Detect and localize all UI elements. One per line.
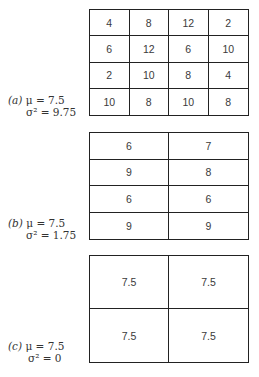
grid-cell: 7.5 [169,256,248,309]
grid-cell: 10 [169,89,209,115]
grid-cell: 9 [90,213,169,240]
panel-tag: (b) [8,217,23,229]
grid-cell: 8 [169,63,209,89]
panel-b-label: (b) μ = 7.5 σ² = 1.75 [8,217,76,241]
grid-cell: 2 [209,10,249,36]
grid-cell: 8 [130,10,170,36]
grid-panel-c: 7.5 7.5 7.5 7.5 [89,255,249,363]
panel-c-label: (c) μ = 7.5 σ² = 0 [8,340,64,364]
grid-panel-b: 6 7 9 8 6 6 9 9 [89,132,249,240]
variance-label: σ² = 0 [8,352,64,364]
grid-cell: 12 [130,36,170,62]
panel-a-label: (a) μ = 7.5 σ² = 9.75 [8,94,76,118]
mean-label: μ = 7.5 [25,340,64,352]
grid-cell: 6 [90,36,130,62]
grid-cell: 4 [209,63,249,89]
grid-cell: 9 [90,160,169,187]
variance-label: σ² = 1.75 [8,229,76,241]
grid-cell: 10 [209,36,249,62]
grid-cell: 12 [169,10,209,36]
grid-cell: 8 [209,89,249,115]
grid-cell: 4 [90,10,130,36]
grid-cell: 10 [90,89,130,115]
grid-cell: 7.5 [90,256,169,309]
mean-label: μ = 7.5 [26,94,65,106]
grid-panel-a: 4 8 12 2 6 12 6 10 2 10 8 4 10 8 10 8 [89,9,249,116]
grid-cell: 6 [90,133,169,160]
grid-cell: 7.5 [169,309,248,362]
grid-cell: 10 [130,63,170,89]
grid-cell: 7 [169,133,248,160]
grid-cell: 6 [90,186,169,213]
grid-cell: 6 [169,36,209,62]
variance-label: σ² = 9.75 [8,106,76,118]
panel-tag: (a) [8,94,22,106]
grid-cell: 8 [130,89,170,115]
grid-cell: 8 [169,160,248,187]
grid-cell: 6 [169,186,248,213]
grid-cell: 2 [90,63,130,89]
mean-label: μ = 7.5 [26,217,65,229]
panel-tag: (c) [8,340,22,352]
grid-cell: 9 [169,213,248,240]
grid-cell: 7.5 [90,309,169,362]
